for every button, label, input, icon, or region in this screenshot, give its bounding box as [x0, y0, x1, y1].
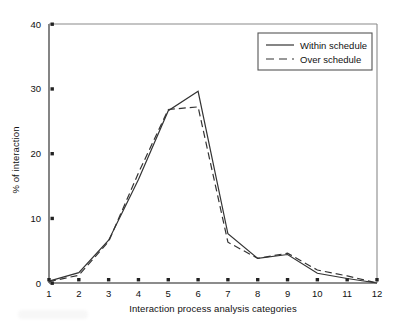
- x-tick-mark: [77, 278, 80, 281]
- y-tick-label: 10: [30, 213, 41, 224]
- x-tick-label: 11: [342, 288, 352, 299]
- x-tick-mark: [196, 278, 199, 281]
- x-tick-label: 1: [46, 288, 51, 299]
- x-tick-label: 2: [76, 288, 81, 299]
- x-tick-label: 5: [166, 288, 171, 299]
- y-tick-mark: [51, 23, 54, 26]
- x-tick-mark: [256, 278, 259, 281]
- y-tick-mark: [51, 217, 54, 220]
- x-tick-label: 8: [255, 288, 260, 299]
- x-tick-label: 9: [285, 288, 290, 299]
- x-tick-label: 3: [106, 288, 111, 299]
- x-tick-mark: [375, 278, 378, 281]
- x-axis-title: Interaction process analysis categories: [129, 303, 297, 314]
- y-tick-label: 20: [30, 148, 41, 159]
- y-tick-mark: [51, 282, 54, 285]
- x-tick-mark: [167, 278, 170, 281]
- y-axis-title: % of interaction: [10, 126, 21, 193]
- legend-label-over-schedule: Over schedule: [300, 54, 361, 65]
- series-group: [49, 91, 377, 283]
- x-axis-ticks: [47, 278, 378, 281]
- x-tick-label: 10: [312, 288, 323, 299]
- x-axis-tick-labels: 123456789101112: [46, 288, 382, 299]
- y-axis-tick-labels: 010203040: [30, 19, 41, 289]
- x-tick-label: 4: [136, 288, 141, 299]
- y-tick-label: 40: [30, 19, 41, 30]
- x-tick-label: 12: [372, 288, 383, 299]
- x-tick-mark: [226, 278, 229, 281]
- x-tick-mark: [286, 278, 289, 281]
- x-tick-mark: [107, 278, 110, 281]
- figure-container: 010203040 123456789101112 Interaction pr…: [0, 0, 400, 327]
- x-tick-mark: [137, 278, 140, 281]
- y-tick-label: 30: [30, 83, 41, 94]
- y-axis-ticks: [51, 23, 54, 285]
- y-tick-label: 0: [36, 278, 41, 289]
- line-chart: 010203040 123456789101112 Interaction pr…: [0, 0, 400, 327]
- legend[interactable]: Within schedule Over schedule: [258, 33, 372, 70]
- x-tick-label: 7: [225, 288, 230, 299]
- y-tick-mark: [51, 152, 54, 155]
- series-over-schedule: [49, 107, 377, 283]
- x-tick-mark: [316, 278, 319, 281]
- x-tick-label: 6: [195, 288, 200, 299]
- legend-label-within-schedule: Within schedule: [300, 40, 367, 51]
- y-tick-mark: [51, 87, 54, 90]
